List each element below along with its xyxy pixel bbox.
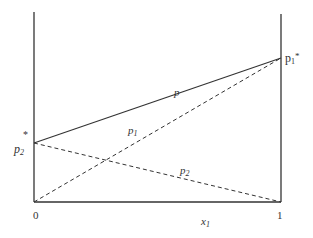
x-tick-1: 1 (277, 209, 283, 221)
p2-label: p2 (179, 164, 190, 178)
x-tick-0: 0 (33, 209, 39, 221)
p2-star-sup: * (23, 129, 28, 140)
total-pressure-label: p (173, 86, 180, 98)
raoult-law-diagram: p p1 p2 p1* * p2 0 1 x1 (0, 0, 313, 238)
p2-star-label: p2 (13, 142, 24, 157)
p1-label: p1 (127, 124, 138, 138)
p1-star-label: p1* (285, 51, 300, 66)
x-axis-label: x1 (200, 215, 210, 229)
p2-partial-pressure-line (34, 143, 281, 202)
